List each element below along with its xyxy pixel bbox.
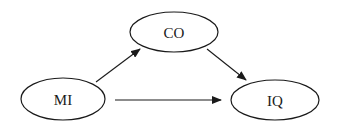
path-diagram: CO MI IQ (0, 0, 338, 127)
node-mi-label: MI (54, 92, 72, 108)
node-co: CO (130, 12, 218, 52)
node-iq-label: IQ (267, 93, 283, 109)
arrow-mi-to-co (96, 49, 140, 82)
node-iq: IQ (231, 80, 319, 120)
arrow-co-to-iq (207, 49, 246, 80)
node-mi: MI (21, 78, 105, 120)
node-co-label: CO (164, 25, 185, 41)
